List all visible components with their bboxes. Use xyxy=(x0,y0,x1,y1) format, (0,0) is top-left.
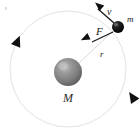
diagram-canvas: m v F r M xyxy=(0,0,139,137)
orbiting-mass-highlight xyxy=(114,23,118,26)
force-label: F xyxy=(95,25,103,37)
radius-label: r xyxy=(100,49,104,59)
central-mass xyxy=(54,58,82,86)
force-vector-arrowhead xyxy=(79,33,90,43)
bottom-right-orbit-arrowhead xyxy=(125,89,139,104)
velocity-label: v xyxy=(107,6,112,17)
corner-speck xyxy=(5,7,7,10)
orbiting-mass xyxy=(112,21,124,33)
orbiting-mass-label: m xyxy=(127,14,134,24)
central-mass-label: M xyxy=(62,91,74,105)
left-orbit-arrowhead xyxy=(11,34,24,48)
central-mass-highlight xyxy=(58,62,68,70)
orbit-diagram: m v F r M xyxy=(0,0,139,137)
